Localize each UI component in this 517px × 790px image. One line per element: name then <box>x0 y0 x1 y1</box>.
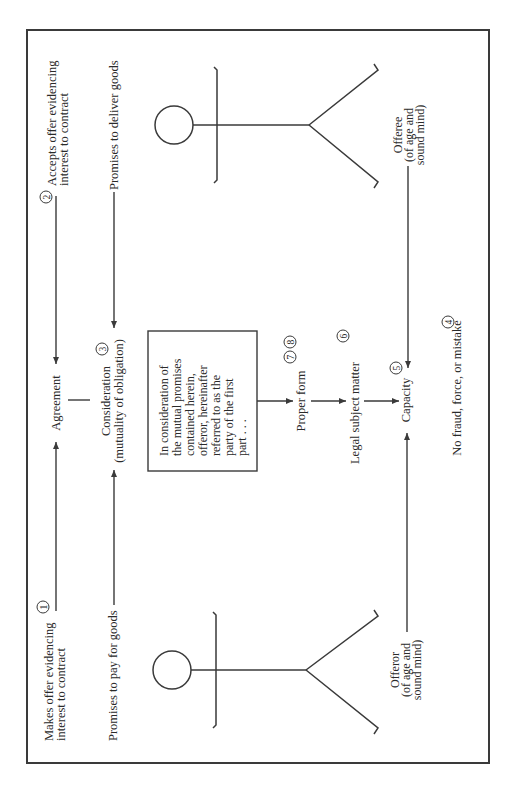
svg-text:7: 7 <box>286 354 296 359</box>
svg-text:5: 5 <box>392 365 402 370</box>
accept-offer-line2: interest to contract <box>57 92 71 186</box>
capacity-label: Capacity <box>399 377 413 422</box>
legal-subject-matter-label: Legal subject matter <box>348 361 362 464</box>
make-offer-line2: interest to contract <box>54 647 68 741</box>
offeror-qualifier-line2: sound mind) <box>410 640 424 700</box>
consideration-qualifier: (mutuality of obligation) <box>112 339 126 463</box>
no-fraud-label: No fraud, force, or mistake <box>450 320 464 456</box>
agreement-label: Agreement <box>49 375 63 431</box>
offeree-stick-figure-icon <box>155 64 378 188</box>
svg-text:6: 6 <box>339 333 349 338</box>
step-7-badge: 7 <box>284 351 296 363</box>
svg-text:referred to as the: referred to as the <box>209 375 223 456</box>
svg-text:party of the first: party of the first <box>222 378 236 456</box>
step-3-badge: 3 <box>96 343 108 355</box>
contract-diagram: 1 2 3 4 5 6 7 8 Accepts offer evidencing… <box>0 0 517 790</box>
offeror-stick-figure-icon <box>153 610 378 734</box>
step-6-badge: 6 <box>337 330 349 342</box>
svg-text:contained herein,: contained herein, <box>183 373 197 456</box>
proper-form-label: Proper form <box>294 370 308 431</box>
step-8-badge: 8 <box>284 336 296 348</box>
offeree-qualifier-line2: sound mind) <box>413 105 427 165</box>
svg-text:offeror, hereinafter: offeror, hereinafter <box>196 365 210 456</box>
svg-text:3: 3 <box>98 346 108 351</box>
svg-text:In consideration of: In consideration of <box>157 365 171 456</box>
step-5-badge: 5 <box>390 362 402 374</box>
svg-text:the mutual promises: the mutual promises <box>170 358 184 456</box>
pay-goods-label: Promises to pay for goods <box>106 610 120 741</box>
consideration-label: Consideration <box>99 365 113 436</box>
svg-text:2: 2 <box>42 194 52 199</box>
deliver-goods-label: Promises to deliver goods <box>107 60 121 190</box>
step-1-badge: 1 <box>37 601 49 613</box>
step-2-badge: 2 <box>40 191 52 203</box>
svg-text:part . . .: part . . . <box>235 419 249 456</box>
contract-box-text: In consideration of the mutual promises … <box>157 358 249 456</box>
svg-text:1: 1 <box>39 604 49 609</box>
svg-text:8: 8 <box>286 339 296 344</box>
